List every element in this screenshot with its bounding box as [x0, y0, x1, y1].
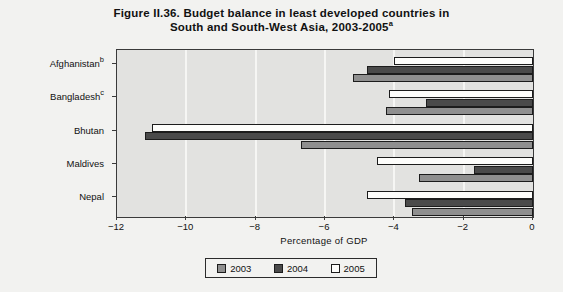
bar-group — [117, 50, 533, 83]
y-axis-label-bhutan: Bhutan — [74, 124, 104, 135]
figure-container: Figure II.36. Budget balance in least de… — [0, 0, 563, 292]
chart-legend: 200320042005 — [205, 258, 377, 278]
x-axis-tick — [185, 216, 186, 220]
bar-group — [117, 150, 533, 183]
bar-bhutan-2003 — [301, 141, 533, 149]
bar-nepal-2003 — [412, 208, 533, 216]
y-axis-label-text: Maldives — [67, 157, 105, 168]
x-axis-tick — [324, 216, 325, 220]
bar-afghanistan-2003 — [353, 74, 533, 82]
x-axis-tick-label: −4 — [388, 221, 399, 232]
y-axis-label-text: Bangladesh — [50, 91, 100, 102]
figure-title: Figure II.36. Budget balance in least de… — [0, 6, 563, 34]
x-axis-tick — [532, 216, 533, 220]
x-axis-tick-label: −8 — [249, 221, 260, 232]
bar-afghanistan-2004 — [367, 66, 533, 74]
y-axis-label-nepal: Nepal — [79, 191, 104, 202]
x-axis-tick-label: −6 — [319, 221, 330, 232]
bar-groups — [117, 50, 533, 217]
legend-label-2003: 2003 — [230, 263, 251, 274]
x-axis-tick — [116, 216, 117, 220]
plot-area — [116, 49, 534, 218]
x-axis-tick — [463, 216, 464, 220]
bar-nepal-2004 — [405, 199, 533, 207]
y-axis-label-bangladesh: Bangladeshc — [50, 91, 104, 102]
bar-bangladesh-2003 — [386, 107, 533, 115]
legend-label-2004: 2004 — [287, 263, 308, 274]
bar-maldives-2004 — [474, 166, 533, 174]
bar-bangladesh-2005 — [389, 90, 533, 98]
bar-nepal-2005 — [367, 191, 533, 199]
legend-item-2003: 2003 — [217, 263, 251, 274]
bar-bhutan-2005 — [152, 124, 533, 132]
y-axis-label-text: Nepal — [79, 191, 104, 202]
x-axis-tick-label: −10 — [177, 221, 193, 232]
bar-maldives-2005 — [377, 157, 533, 165]
y-axis-label-afghanistan: Afghanistanb — [50, 57, 104, 68]
legend-label-2005: 2005 — [344, 263, 365, 274]
y-axis-label-text: Bhutan — [74, 124, 104, 135]
legend-swatch-2004 — [274, 264, 283, 273]
bar-group — [117, 184, 533, 217]
x-axis-tick-label: −12 — [108, 221, 124, 232]
bar-maldives-2003 — [419, 174, 533, 182]
figure-title-footnote-marker: a — [389, 19, 393, 28]
figure-title-line-2-text: South and South-West Asia, 2003-2005 — [170, 21, 389, 33]
legend-swatch-2003 — [217, 264, 226, 273]
y-axis-label-maldives: Maldives — [67, 157, 105, 168]
x-axis-tick-label: 0 — [529, 221, 534, 232]
y-axis-label-footnote-marker: c — [100, 88, 104, 97]
figure-title-line-2: South and South-West Asia, 2003-2005a — [0, 20, 563, 34]
x-axis-title: Percentage of GDP — [116, 235, 532, 246]
bar-group — [117, 117, 533, 150]
x-axis-tick-label: −2 — [457, 221, 468, 232]
y-axis-label-text: Afghanistan — [50, 57, 100, 68]
legend-item-2005: 2005 — [331, 263, 365, 274]
x-axis-tick — [255, 216, 256, 220]
bar-bangladesh-2004 — [426, 99, 533, 107]
x-axis-tick — [393, 216, 394, 220]
legend-swatch-2005 — [331, 264, 340, 273]
bar-afghanistan-2005 — [394, 57, 533, 65]
x-axis-tick-labels: −12−10−8−6−4−20 — [0, 221, 563, 235]
figure-title-line-1: Figure II.36. Budget balance in least de… — [0, 6, 563, 20]
bar-bhutan-2004 — [145, 132, 533, 140]
y-axis-label-footnote-marker: b — [100, 55, 104, 64]
bar-group — [117, 83, 533, 116]
y-axis-labels: AfghanistanbBangladeshcBhutanMaldivesNep… — [0, 49, 112, 216]
legend-item-2004: 2004 — [274, 263, 308, 274]
